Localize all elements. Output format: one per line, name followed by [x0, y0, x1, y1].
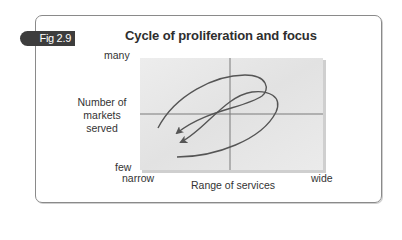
y-axis-title-line-1: Number of — [70, 96, 134, 109]
y-axis-title: Number of markets served — [70, 96, 134, 135]
y-axis-title-line-2: markets — [70, 109, 134, 122]
y-axis-title-line-3: served — [70, 122, 134, 135]
x-axis-title: Range of services — [191, 179, 275, 191]
y-axis-top-label: many — [104, 49, 130, 61]
x-axis-right-label: wide — [311, 172, 333, 184]
x-axis-left-label: narrow — [122, 172, 154, 184]
